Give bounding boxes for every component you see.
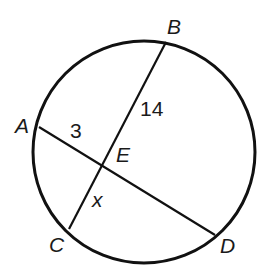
segment-label-ae: 3 bbox=[70, 119, 82, 142]
circle-chords-diagram: A B C D E 3 14 x bbox=[0, 0, 266, 279]
point-label-d: D bbox=[220, 234, 235, 257]
point-label-c: C bbox=[49, 233, 65, 256]
segment-label-ce: x bbox=[91, 188, 104, 211]
point-label-a: A bbox=[13, 114, 29, 137]
circle bbox=[33, 41, 255, 263]
point-label-e: E bbox=[116, 143, 131, 166]
chord-bc bbox=[69, 42, 166, 229]
segment-label-be: 14 bbox=[140, 97, 164, 120]
point-label-b: B bbox=[167, 15, 181, 38]
